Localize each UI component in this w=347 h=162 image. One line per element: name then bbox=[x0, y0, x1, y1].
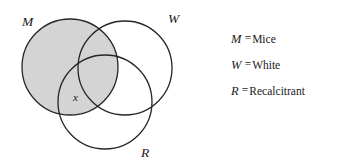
region-marker-x: x bbox=[72, 91, 78, 103]
circle-label-m: M bbox=[21, 14, 34, 29]
legend-equals-w: = bbox=[245, 58, 252, 70]
venn-diagram-figure: M W R x M = Mice W = White R = Recalcitr… bbox=[0, 0, 347, 162]
legend-item-m: M = Mice bbox=[231, 32, 343, 58]
legend-term-w: White bbox=[252, 59, 280, 71]
legend-term-m: Mice bbox=[252, 33, 276, 45]
legend-equals-m: = bbox=[245, 32, 252, 44]
legend-symbol-r: R bbox=[231, 84, 239, 99]
legend-symbol-m: M bbox=[231, 32, 242, 47]
legend: M = Mice W = White R = Recalcitrant bbox=[231, 32, 343, 110]
circle-label-w: W bbox=[168, 11, 181, 26]
legend-item-w: W = White bbox=[231, 58, 343, 84]
legend-equals-r: = bbox=[242, 84, 249, 96]
legend-item-r: R = Recalcitrant bbox=[231, 84, 343, 110]
legend-term-r: Recalcitrant bbox=[249, 85, 305, 97]
legend-symbol-w: W bbox=[231, 58, 242, 73]
circle-label-r: R bbox=[140, 145, 150, 160]
